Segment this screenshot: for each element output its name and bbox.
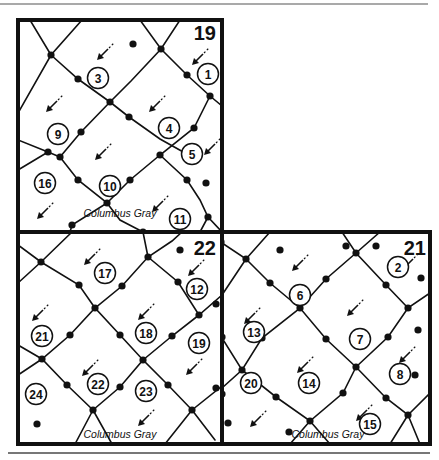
survey-point xyxy=(212,300,219,307)
survey-point xyxy=(38,355,45,362)
lot-14[interactable]: 14 xyxy=(299,373,320,394)
survey-point xyxy=(276,246,283,253)
survey-point xyxy=(74,176,81,183)
road-line xyxy=(222,259,246,295)
lot-16[interactable]: 16 xyxy=(35,173,56,194)
lot-number: 2 xyxy=(395,261,402,275)
lot-8[interactable]: 8 xyxy=(390,364,411,385)
direction-arrow-icon xyxy=(250,410,267,427)
lot-23[interactable]: 23 xyxy=(136,381,157,402)
survey-point xyxy=(414,326,421,333)
survey-point xyxy=(116,383,123,390)
direction-arrow-icon xyxy=(37,202,54,219)
road-line xyxy=(246,232,380,308)
survey-point xyxy=(384,333,391,340)
lot-6[interactable]: 6 xyxy=(290,285,311,306)
lot-9[interactable]: 9 xyxy=(48,124,69,145)
road-line xyxy=(30,20,51,55)
lot-18[interactable]: 18 xyxy=(136,323,157,344)
lot-24[interactable]: 24 xyxy=(26,384,47,405)
lot-13[interactable]: 13 xyxy=(244,322,265,343)
lot-20[interactable]: 20 xyxy=(241,373,262,394)
road-line xyxy=(18,20,82,113)
lot-19[interactable]: 19 xyxy=(189,333,210,354)
lot-number: 21 xyxy=(35,330,49,344)
survey-point xyxy=(411,371,418,378)
direction-arrow-icon xyxy=(399,346,416,363)
survey-point xyxy=(129,40,136,47)
lot-number: 3 xyxy=(95,72,102,86)
survey-point xyxy=(63,381,70,388)
survey-point xyxy=(352,249,359,256)
lot-number: 13 xyxy=(247,326,261,340)
survey-point xyxy=(190,124,197,131)
direction-arrow-icon xyxy=(347,299,364,316)
survey-point xyxy=(352,363,359,370)
road-line xyxy=(18,345,222,410)
road-line xyxy=(148,257,222,315)
survey-point xyxy=(339,389,346,396)
lot-15[interactable]: 15 xyxy=(360,414,381,435)
section-numbers-layer: 192221 xyxy=(194,22,426,259)
lot-number: 16 xyxy=(38,177,52,191)
lot-17[interactable]: 17 xyxy=(95,263,116,284)
survey-point xyxy=(157,45,164,52)
survey-point xyxy=(306,417,313,424)
survey-point xyxy=(168,332,175,339)
lot-7[interactable]: 7 xyxy=(350,329,371,350)
direction-arrow-icon xyxy=(138,303,155,320)
survey-point xyxy=(404,304,411,311)
lot-5[interactable]: 5 xyxy=(182,144,203,165)
direction-arrows-layer xyxy=(32,43,419,427)
survey-point xyxy=(238,366,245,373)
road-line xyxy=(143,232,148,257)
survey-point xyxy=(103,199,110,206)
street-name-label: Columbus Gray xyxy=(292,428,366,440)
survey-point xyxy=(195,311,202,318)
lot-number: 9 xyxy=(55,128,62,142)
survey-point xyxy=(33,420,40,427)
direction-arrow-icon xyxy=(297,356,314,373)
survey-point xyxy=(37,258,44,265)
survey-point xyxy=(77,128,84,135)
survey-point xyxy=(74,75,81,82)
survey-point xyxy=(266,279,273,286)
survey-point xyxy=(176,246,183,253)
survey-point xyxy=(164,381,171,388)
survey-point xyxy=(322,335,329,342)
lot-number: 15 xyxy=(363,418,377,432)
survey-point xyxy=(118,282,125,289)
lot-number: 14 xyxy=(302,377,316,391)
lot-1[interactable]: 1 xyxy=(198,64,219,85)
direction-arrow-icon xyxy=(292,254,309,271)
lot-12[interactable]: 12 xyxy=(187,279,208,300)
road-line xyxy=(408,415,420,444)
street-name-label: Columbus Gray xyxy=(84,428,158,440)
survey-point xyxy=(89,406,96,413)
lot-number: 17 xyxy=(98,267,112,281)
survey-point xyxy=(212,384,219,391)
road-line xyxy=(165,410,192,444)
section-number-22: 22 xyxy=(194,237,216,259)
lot-number: 1 xyxy=(205,68,212,82)
survey-point xyxy=(125,113,132,120)
survey-point xyxy=(183,176,190,183)
survey-point xyxy=(417,274,424,281)
survey-point xyxy=(156,151,163,158)
lot-4[interactable]: 4 xyxy=(159,118,180,139)
lot-11[interactable]: 11 xyxy=(170,209,191,230)
subdivision-map: Columbus GrayColumbus GrayColumbus Gray … xyxy=(0,0,439,460)
direction-arrow-icon xyxy=(46,95,63,112)
lot-2[interactable]: 2 xyxy=(388,257,409,278)
lot-number: 24 xyxy=(29,388,43,402)
lot-number: 4 xyxy=(166,122,173,136)
survey-point xyxy=(372,242,379,249)
lot-3[interactable]: 3 xyxy=(88,68,109,89)
lot-10[interactable]: 10 xyxy=(100,176,121,197)
road-line xyxy=(390,415,408,444)
lot-22[interactable]: 22 xyxy=(88,374,109,395)
survey-point xyxy=(126,176,133,183)
lot-number: 11 xyxy=(174,213,187,227)
survey-point xyxy=(188,406,195,413)
lot-21[interactable]: 21 xyxy=(32,326,53,347)
